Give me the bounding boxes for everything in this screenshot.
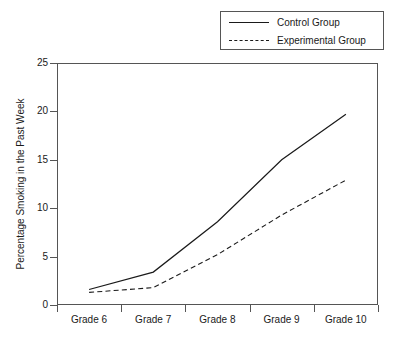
series-line-control-group (89, 114, 346, 289)
series-line-experimental-group (89, 180, 346, 292)
line-chart: Control Group Experimental Group Percent… (0, 0, 394, 337)
series-layer (0, 0, 394, 337)
